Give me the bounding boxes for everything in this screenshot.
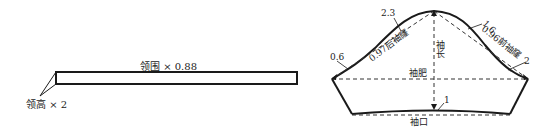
collar-height-leader-top (40, 72, 56, 96)
front-armhole-label: 0.96前袖窿 (480, 23, 524, 61)
offset-cuff: 1 (444, 95, 450, 105)
bicep-label: 袖肥 (409, 67, 427, 78)
cuff-label: 袖口 (410, 116, 428, 127)
leader-back-lower (337, 61, 348, 69)
back-armhole-label: 0.97后袖窿 (366, 26, 410, 64)
arrow-down-icon (431, 104, 437, 110)
cuff-curve (352, 111, 510, 115)
sleeve-length-label: 袖长 (435, 39, 445, 59)
right-point-arrow-icon (523, 74, 529, 80)
collar-length-label: 领围 × 0.88 (140, 60, 197, 72)
offset-back-lower: 0.6 (330, 52, 345, 62)
left-point-arrow-icon (331, 74, 337, 80)
collar-height-leader-bottom (40, 84, 56, 96)
front-underarm-seam (510, 79, 528, 114)
collar-height-label: 领高 × 2 (26, 98, 67, 110)
offset-back-upper: 2.3 (381, 8, 396, 18)
back-underarm-seam (332, 79, 352, 114)
pattern-diagram: 领围 × 0.88 领高 × 2 2.3 0.6 1.6 2 (0, 0, 557, 130)
collar-piece: 领围 × 0.88 领高 × 2 (26, 60, 297, 110)
collar-rectangle (56, 72, 297, 84)
offset-front-lower: 2 (524, 56, 530, 66)
sleeve-piece: 2.3 0.6 1.6 2 1 0.97后袖窿 0.96前袖窿 袖长 袖肥 袖口 (330, 8, 530, 127)
